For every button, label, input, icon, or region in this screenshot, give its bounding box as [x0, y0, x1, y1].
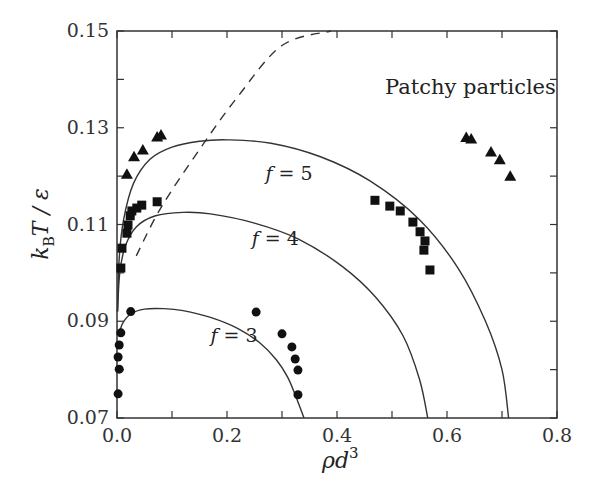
square-marker — [116, 264, 125, 273]
x-tick-label: 0.2 — [212, 424, 242, 446]
chart-annotation: Patchy particles — [385, 75, 556, 99]
dashed-boundary-line — [136, 31, 331, 256]
square-marker — [419, 246, 428, 255]
square-marker — [425, 265, 434, 274]
x-axis-label-text: ρd3 — [321, 444, 359, 473]
circle-marker — [291, 354, 300, 363]
y-tick-label: 0.07 — [67, 406, 109, 428]
y-tick-label: 0.15 — [67, 19, 109, 41]
circle-marker — [114, 353, 123, 362]
square-marker — [117, 244, 126, 253]
x-tick-label: 0.8 — [542, 424, 572, 446]
square-marker — [370, 196, 379, 205]
circle-marker — [252, 308, 261, 317]
circle-marker — [126, 307, 135, 316]
square-marker — [385, 202, 394, 211]
square-marker — [408, 218, 417, 227]
x-tick-label: 0.4 — [322, 424, 352, 446]
curve-label: f = 3 — [209, 324, 258, 346]
square-marker — [122, 229, 131, 238]
y-tick-label: 0.11 — [67, 213, 109, 235]
triangle-marker — [137, 144, 149, 155]
curve-label: f = 4 — [250, 227, 299, 249]
square-marker — [416, 227, 425, 236]
triangle-marker — [504, 170, 516, 181]
circle-marker — [278, 329, 287, 338]
circle-marker — [293, 390, 302, 399]
square-marker — [396, 206, 405, 215]
square-marker — [124, 220, 133, 229]
triangle-marker — [485, 146, 497, 157]
circle-marker — [293, 366, 302, 375]
circle-marker — [116, 328, 125, 337]
square-marker — [137, 201, 146, 210]
y-axis-label: kBT / ε — [28, 188, 57, 260]
curve-labels: f = 3f = 4f = 5 — [209, 162, 313, 346]
phase-diagram-chart: 0.00.20.40.60.80.070.090.110.130.15 f = … — [0, 0, 591, 503]
circle-marker — [115, 365, 124, 374]
theory-curve — [118, 140, 509, 418]
square-marker — [421, 236, 430, 245]
x-axis-label: ρd3 — [321, 444, 359, 473]
x-tick-label: 0.6 — [432, 424, 462, 446]
triangle-marker — [121, 168, 133, 179]
y-tick-label: 0.09 — [67, 309, 109, 331]
y-axis-label-text: kBT / ε — [28, 188, 57, 260]
circle-marker — [114, 389, 123, 398]
circle-marker — [115, 340, 124, 349]
y-tick-label: 0.13 — [67, 116, 109, 138]
circle-marker — [287, 342, 296, 351]
square-marker — [153, 197, 162, 206]
curve-label: f = 5 — [264, 162, 313, 184]
